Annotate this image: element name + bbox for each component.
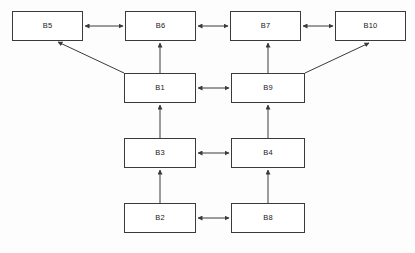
node-b7[interactable]: B7 bbox=[230, 11, 301, 41]
node-b1[interactable]: B1 bbox=[124, 73, 196, 103]
diagram-canvas: B5 B6 B7 B10 B1 B9 B3 B4 B2 B8 bbox=[0, 0, 415, 253]
node-b8[interactable]: B8 bbox=[231, 203, 305, 233]
node-b2[interactable]: B2 bbox=[124, 203, 196, 233]
node-b6[interactable]: B6 bbox=[125, 11, 196, 41]
node-b9[interactable]: B9 bbox=[231, 73, 305, 103]
edge-b9-b10 bbox=[305, 43, 369, 73]
edge-b1-b5 bbox=[58, 42, 124, 73]
node-b4[interactable]: B4 bbox=[231, 138, 305, 168]
node-b5[interactable]: B5 bbox=[12, 11, 83, 41]
node-b10[interactable]: B10 bbox=[335, 11, 406, 41]
node-b3[interactable]: B3 bbox=[124, 138, 196, 168]
